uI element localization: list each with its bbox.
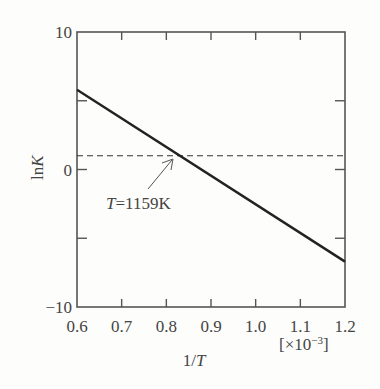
x-tick-label: 1.2 bbox=[334, 317, 355, 336]
annotation-arrow-icon bbox=[148, 159, 173, 189]
y-axis-label: lnK bbox=[28, 154, 47, 180]
x-tick-label: 0.9 bbox=[200, 317, 221, 336]
x-tick-label: 0.7 bbox=[111, 317, 133, 336]
y-tick-label: 10 bbox=[55, 23, 72, 42]
y-axis-ticks: 100−10 bbox=[45, 23, 345, 317]
x-axis-label: 1/T bbox=[183, 351, 207, 370]
x-axis-ticks: 0.60.70.80.91.01.11.2 bbox=[66, 32, 355, 336]
annotation-label: T=1159K bbox=[106, 194, 171, 213]
y-tick-label: 0 bbox=[64, 161, 73, 180]
x-tick-label: 0.6 bbox=[66, 317, 87, 336]
x-axis-unit: [×10−3] bbox=[279, 334, 329, 354]
data-line-lnK bbox=[77, 90, 345, 262]
chart: 0.60.70.80.91.01.11.2 100−10 T=1159K lnK… bbox=[0, 0, 380, 389]
x-tick-label: 1.0 bbox=[245, 317, 266, 336]
x-tick-label: 1.1 bbox=[290, 317, 311, 336]
y-tick-label: −10 bbox=[45, 298, 72, 317]
x-tick-label: 0.8 bbox=[156, 317, 177, 336]
plot-frame bbox=[77, 32, 345, 307]
